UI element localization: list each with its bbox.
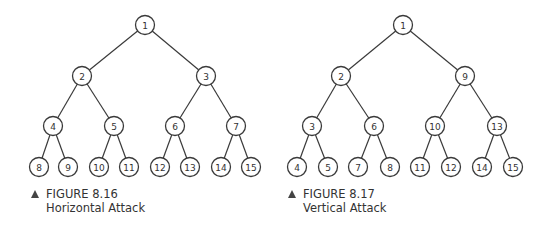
node-label: 2 [338,72,344,82]
tree-node: 7 [227,117,246,136]
tree-node: 5 [319,158,338,177]
figure-number: FIGURE 8.16 [46,187,145,201]
triangle-marker-icon [31,190,39,198]
node-label: 2 [79,72,85,82]
tree-edge [145,25,206,76]
node-label: 4 [50,122,56,132]
node-label: 9 [462,72,468,82]
node-label: 1 [400,21,406,31]
node-label: 14 [476,163,488,173]
tree-edge [82,25,145,76]
tree-node: 13 [488,117,507,136]
tree-node: 15 [504,158,523,177]
node-label: 12 [445,163,456,173]
node-label: 13 [491,122,502,132]
tree-edge [341,25,403,76]
node-label: 9 [65,163,71,173]
horizontal-attack-tree: 123456789101112131415 [30,16,261,177]
tree-node: 13 [181,158,200,177]
tree-node: 10 [426,117,445,136]
figure-8-17-caption: FIGURE 8.17 Vertical Attack [303,187,386,215]
tree-node: 2 [332,67,351,86]
tree-node: 15 [242,158,261,177]
tree-node: 7 [349,158,368,177]
node-label: 5 [325,163,331,173]
tree-node: 4 [288,158,307,177]
node-label: 8 [387,163,393,173]
node-label: 4 [294,163,300,173]
tree-node: 14 [473,158,492,177]
figure-8-16-caption: FIGURE 8.16 Horizontal Attack [46,187,145,215]
tree-node: 6 [365,117,384,136]
node-label: 8 [36,163,42,173]
tree-node: 11 [411,158,430,177]
node-label: 3 [309,122,315,132]
tree-node: 12 [442,158,461,177]
tree-node: 3 [197,67,216,86]
figure-title: Vertical Attack [303,201,386,215]
tree-node: 1 [394,16,413,35]
node-label: 10 [93,163,105,173]
node-label: 15 [507,163,518,173]
node-label: 5 [111,122,117,132]
vertical-attack-tree: 129361013457811121415 [288,16,523,177]
tree-node: 2 [73,67,92,86]
tree-node: 12 [151,158,170,177]
node-label: 12 [154,163,165,173]
node-label: 13 [184,163,195,173]
node-label: 11 [414,163,425,173]
tree-node: 8 [30,158,49,177]
triangle-marker-icon [288,190,296,198]
node-label: 7 [233,122,239,132]
node-label: 3 [203,72,209,82]
node-label: 7 [355,163,361,173]
tree-edge [403,25,465,76]
tree-node: 5 [105,117,124,136]
figure-title: Horizontal Attack [46,201,145,215]
node-label: 14 [215,163,227,173]
tree-node: 4 [44,117,63,136]
tree-node: 9 [59,158,78,177]
tree-node: 11 [120,158,139,177]
figure-number: FIGURE 8.17 [303,187,386,201]
tree-node: 10 [90,158,109,177]
node-label: 1 [142,21,148,31]
node-label: 6 [172,122,178,132]
tree-node: 6 [166,117,185,136]
tree-node: 14 [212,158,231,177]
node-label: 15 [245,163,256,173]
tree-node: 8 [381,158,400,177]
node-label: 10 [429,122,441,132]
tree-node: 3 [303,117,322,136]
tree-node: 1 [136,16,155,35]
node-label: 11 [123,163,134,173]
node-label: 6 [371,122,377,132]
tree-node: 9 [456,67,475,86]
